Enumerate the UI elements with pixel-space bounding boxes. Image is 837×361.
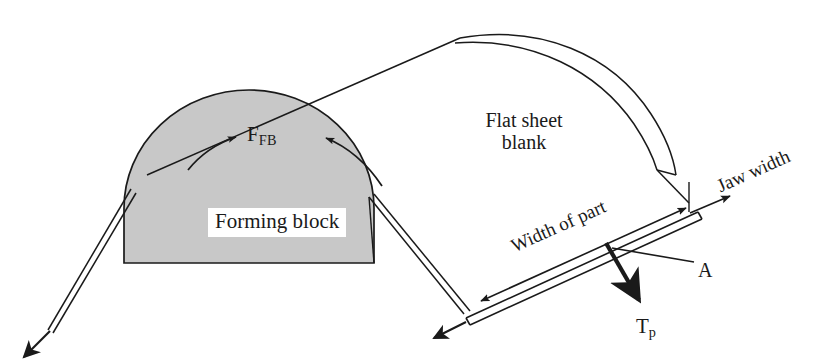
forming-block-shape: [124, 90, 374, 263]
section-a-label: A: [698, 259, 712, 281]
flat-sheet-blank-label-line1: Flat sheet: [485, 109, 562, 131]
forming-block-force-subscript: FB: [259, 132, 277, 148]
sheet-left-pull-arrow-line: [24, 331, 50, 357]
jaw-strip: [466, 212, 702, 325]
part-tension-symbol: T: [636, 314, 649, 338]
jaw-strip-right-cap: [698, 212, 702, 219]
forming-block-force-label: FFB: [247, 123, 277, 147]
flat-sheet-blank-label-line2: blank: [502, 131, 546, 153]
jaw-width-arrow-line: [690, 196, 730, 213]
forming-process-diagram: Forming block Flat sheet blank FFB Tp A …: [0, 0, 837, 361]
flat-sheet-blank-label: Flat sheet blank: [464, 109, 584, 154]
jaw-strip-pull-arrow-line: [434, 322, 466, 338]
forming-block-force-symbol: F: [247, 122, 259, 146]
sheet-outer-crown-arc: [460, 35, 676, 175]
sheet-left-edge-outer: [48, 189, 131, 330]
sheet-right-descend-outer: [369, 197, 464, 314]
jaw-strip-bottom-line: [470, 219, 702, 325]
part-tension-label: Tp: [636, 315, 656, 339]
sheet-left-pull-arrow: [24, 331, 50, 357]
forming-block-body: [124, 90, 374, 263]
forming-block-label: Forming block: [208, 208, 346, 237]
part-tension-subscript: p: [649, 324, 656, 340]
diagram-canvas: [0, 0, 837, 361]
jaw-width-arrow: [690, 196, 730, 213]
jaw-strip-pull-arrow: [434, 322, 466, 338]
jaw-strip-left-cap: [466, 318, 470, 325]
jaw-strip-top-line: [466, 212, 698, 318]
sheet-right-descend-inner: [374, 194, 470, 311]
